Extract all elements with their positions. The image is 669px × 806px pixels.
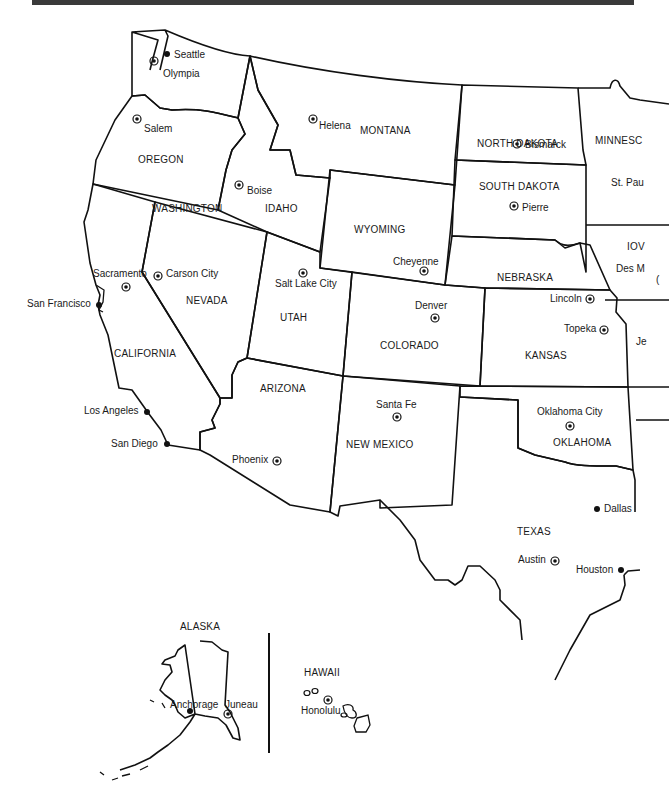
capital-label-bismarck: Bismarck [525,140,566,150]
state-label-wyoming: WYOMING [354,225,405,235]
capital-label-austin: Austin [518,555,546,565]
clipped-label-jefferson: Je [636,337,647,347]
state-label-alaska: ALASKA [180,622,220,632]
state-label-oregon: OREGON [138,155,184,165]
city-label-anchorage: Anchorage [170,700,218,710]
city-label-seattle: Seattle [174,50,205,60]
colorado-border [343,272,485,386]
capital-label-phoenix: Phoenix [232,455,268,465]
state-label-oklahoma: OKLAHOMA [553,438,611,448]
capital-label-helena: Helena [319,121,351,131]
capital-label-salem: Salem [144,124,172,134]
state-label-montana: MONTANA [360,126,411,136]
state-label-new-mexico: NEW MEXICO [346,440,414,450]
capital-star-centers [124,59,606,716]
state-label-idaho: IDAHO [265,204,298,214]
state-label-kansas: KANSAS [525,351,567,361]
state-label-iowa: IOV [627,242,645,252]
maui-island [343,705,356,718]
state-label-utah: UTAH [280,313,307,323]
capital-label-juneau: Juneau [225,700,258,710]
capital-label-honolulu: Honolulu [301,706,340,716]
north-dakota-border [455,85,586,165]
state-label-california: CALIFORNIA [114,349,176,359]
capital-label-olympia: Olympia [163,69,200,79]
capital-label-denver: Denver [415,301,447,311]
city-label-san-francisco: San Francisco [27,299,91,309]
capital-label-cheyenne: Cheyenne [393,257,439,267]
alaska-islands [100,700,165,780]
capital-label-sacramento: Sacramento [93,269,147,279]
utah-border [247,232,352,376]
city-markers [96,51,624,714]
state-label-hawaii: HAWAII [304,668,340,678]
arizona-border [200,358,343,512]
capital-markers [122,57,608,718]
kauai-island [304,691,310,696]
state-label-nevada: NEVADA [186,296,228,306]
city-label-dallas: Dallas [604,504,632,514]
city-label-los-angeles: Los Angeles [84,406,139,416]
niihau-island [312,689,318,694]
montana-border [250,56,462,185]
state-label-texas: TEXAS [517,527,551,537]
capital-label-salt-lake-city: Salt Lake City [275,279,337,289]
capital-label-carson-city: Carson City [166,269,218,279]
state-label-arizona: ARIZONA [260,384,306,394]
capital-label-lincoln: Lincoln [550,294,582,304]
state-label-nebraska: NEBRASKA [497,273,553,283]
capital-label-pierre: Pierre [522,203,549,213]
capital-label-topeka: Topeka [564,324,596,334]
big-island [354,715,370,732]
state-label-south-dakota: SOUTH DAKOTA [479,182,560,192]
clipped-label-st-paul: St. Pau [611,178,644,188]
capital-label-oklahoma-city: Oklahoma City [537,407,603,417]
city-label-san-diego: San Diego [111,439,158,449]
state-label-minnesota: MINNESC [595,136,643,146]
south-dakota-border [452,160,586,272]
city-label-houston: Houston [576,565,613,575]
clipped-label-des-moines-2: ( [656,275,659,285]
state-label-colorado: COLORADO [380,341,439,351]
clipped-label-des-moines: Des M [616,264,645,274]
capital-label-santa-fe: Santa Fe [376,400,417,410]
state-label-washington: WASHINGTON [152,204,222,214]
capital-label-boise: Boise [247,186,272,196]
